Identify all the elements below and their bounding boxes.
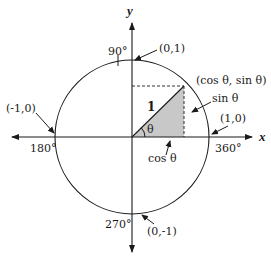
label-point-right: (1,0) (220, 112, 246, 125)
label-point-bottom: (0,-1) (147, 225, 177, 238)
label-angle-90: 90° (108, 45, 128, 58)
label-sin-theta: sin θ (212, 92, 239, 105)
label-point-left: (-1,0) (6, 102, 36, 115)
y-axis-label: y (125, 3, 133, 18)
arrow-to-top-point (135, 50, 157, 60)
unit-circle-diagram: y x (0,1) (-1,0) (1,0) (0,-1) (cos θ, si… (0, 0, 271, 260)
label-theta: θ (147, 123, 154, 136)
arrow-to-right-point (212, 126, 228, 134)
label-hypotenuse: 1 (147, 100, 155, 114)
x-axis-label: x (258, 129, 266, 144)
label-cos-theta: cos θ (148, 152, 177, 165)
label-angle-180: 180° (30, 142, 57, 155)
arrow-to-left-point (36, 113, 54, 133)
arrow-to-bottom-point (142, 215, 154, 224)
label-point-top: (0,1) (159, 42, 185, 55)
label-point-on-circle: (cos θ, sin θ) (196, 74, 267, 87)
label-angle-270: 270° (105, 218, 132, 231)
label-angle-360: 360° (215, 142, 242, 155)
